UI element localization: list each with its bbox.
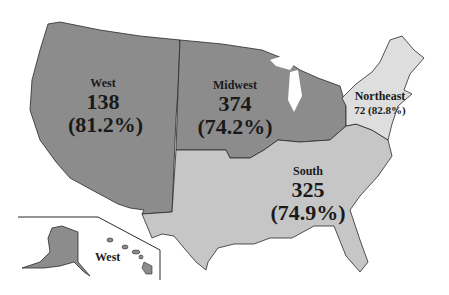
northeast-name: Northeast <box>340 89 420 104</box>
midwest-count: 374 <box>195 93 275 115</box>
south-label: South 325 (74.9%) <box>268 164 348 225</box>
inset-west-label: West <box>95 250 120 265</box>
us-regions-map <box>0 0 449 295</box>
midwest-percent: (74.2%) <box>195 115 275 139</box>
west-percent: (81.2%) <box>68 113 138 137</box>
northeast-label: Northeast 72 (82.8%) <box>340 89 420 116</box>
west-label: West 138 (81.2%) <box>68 76 138 137</box>
south-percent: (74.9%) <box>268 201 348 225</box>
midwest-label: Midwest 374 (74.2%) <box>195 78 275 139</box>
region-northeast <box>342 36 424 140</box>
northeast-count-percent: 72 (82.8%) <box>340 104 420 116</box>
inset-border <box>18 217 160 280</box>
alaska <box>22 226 90 276</box>
west-count: 138 <box>68 91 138 113</box>
south-count: 325 <box>268 179 348 201</box>
